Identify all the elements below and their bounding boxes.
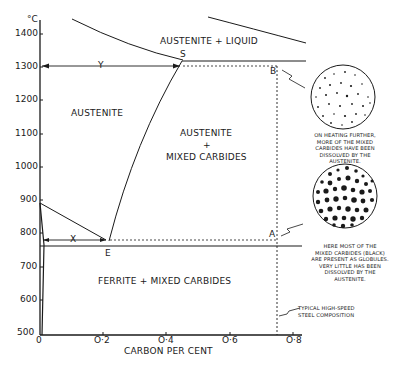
microstructure-globules-icon	[313, 164, 377, 228]
x-tick-0-6: O·6	[222, 335, 238, 345]
region-austenite: AUSTENITE	[71, 108, 123, 118]
y-tick-500: 500	[17, 327, 34, 337]
y-tick-1100: 1100	[15, 128, 38, 138]
region-austenite-carbides-line1: AUSTENITE	[180, 128, 232, 138]
y-tick-800: 800	[20, 227, 37, 237]
y-tick-1400: 1400	[15, 28, 38, 38]
callout-a	[281, 224, 303, 236]
point-s-label: S	[180, 49, 186, 59]
point-e-label: E	[105, 248, 111, 258]
region-austenite-carbides-line2: MIXED CARBIDES	[166, 152, 247, 162]
arrowhead-right-y	[173, 64, 180, 69]
note-composition: TYPICAL HIGH-SPEED STEEL COMPOSITION	[298, 305, 368, 318]
lever-y-label: Y	[98, 60, 104, 70]
y-tick-900: 900	[20, 194, 37, 204]
lever-x-label: X	[70, 234, 76, 244]
callout-b	[282, 70, 305, 88]
note-heated: ON HEATING FURTHER, MORE OF THE MIXED CA…	[306, 132, 384, 165]
acm-curve	[109, 61, 182, 241]
note-globules: HERE MOST OF THE MIXED CARBIDES (BLACK) …	[302, 243, 398, 283]
callout-composition	[279, 308, 300, 316]
y-tick-1300: 1300	[15, 61, 38, 71]
y-tick-1200: 1200	[15, 94, 38, 104]
point-b-label: B	[270, 66, 276, 76]
x-tick-0: 0	[36, 335, 42, 345]
y-tick-700: 700	[20, 261, 37, 271]
region-ferrite-carbides: FERRITE + MIXED CARBIDES	[98, 276, 231, 286]
x-axis-title: CARBON PER CENT	[124, 346, 213, 356]
point-a-label: A	[269, 229, 275, 239]
y-tick-1000: 1000	[15, 161, 38, 171]
x-tick-0-4: O·4	[158, 335, 174, 345]
x-tick-0-8: O·8	[286, 335, 302, 345]
region-austenite-carbides-plus: +	[203, 140, 211, 150]
microstructure-heated-icon	[311, 65, 375, 129]
region-austenite-liquid: AUSTENITE + LIQUID	[160, 36, 258, 46]
y-tick-600: 600	[20, 294, 37, 304]
x-tick-0-2: O·2	[94, 335, 110, 345]
y-axis-unit: °C	[27, 14, 38, 24]
arrowhead-left-y	[42, 64, 49, 69]
